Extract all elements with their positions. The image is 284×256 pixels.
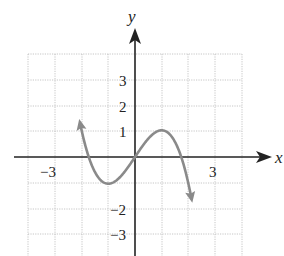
y-tick-neg3: −3	[110, 227, 126, 243]
x-tick-neg3: −3	[40, 164, 56, 180]
cubic-function-graph: x y −3 3 3 2 1 −2 −3	[0, 0, 284, 256]
x-axis-label: x	[274, 148, 283, 167]
y-tick-1: 1	[119, 124, 127, 140]
y-axis-label: y	[126, 7, 136, 26]
x-tick-3: 3	[209, 164, 217, 180]
y-tick-2: 2	[119, 99, 127, 115]
y-tick-neg2: −2	[110, 202, 126, 218]
function-curve	[81, 128, 190, 194]
y-tick-3: 3	[119, 73, 127, 89]
axes	[14, 28, 272, 256]
